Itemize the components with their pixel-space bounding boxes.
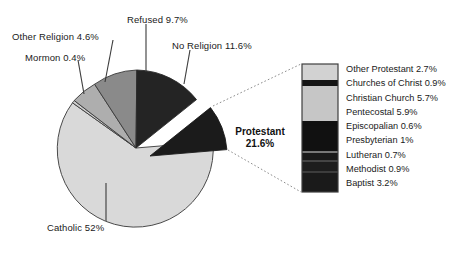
protestant-breakout-bar [302,64,338,192]
breakout-legend: Other Protestant 2.7% Churches of Christ… [346,62,474,191]
leader-line-no-religion [184,50,190,84]
legend-item: Methodist 0.9% [346,162,474,176]
bar-segment-episcopalian[interactable] [302,121,338,126]
legend-item: Churches of Christ 0.9% [346,76,474,90]
connector-top [213,64,301,106]
legend-item: Christian Church 5.7% [346,91,474,105]
label-protestant: Protestant 21.6% [227,126,293,149]
bar-segment-presbyterian[interactable] [302,126,338,152]
bar-segment-churches-of-christ[interactable] [302,80,338,86]
legend-item: Baptist 3.2% [346,176,474,190]
legend-item: Episcopalian 0.6% [346,119,474,133]
bar-segment-baptist[interactable] [302,172,338,192]
label-mormon: Mormon 0.4% [25,52,85,63]
bar-segment-christian-church[interactable] [302,86,338,103]
label-refused: Refused 9.7% [127,14,188,25]
bar-segment-lutheran[interactable] [302,152,338,161]
legend-item: Lutheran 0.7% [346,148,474,162]
label-protestant-name: Protestant [227,126,293,138]
bar-segment-other-protestant[interactable] [302,64,338,80]
connector-bottom [228,150,301,192]
label-catholic: Catholic 52% [47,222,104,233]
leader-line-mormon [78,60,84,94]
label-other-religion: Other Religion 4.6% [12,31,99,42]
label-no-religion: No Religion 11.6% [172,40,252,51]
label-protestant-value: 21.6% [227,138,293,150]
chart-canvas: Other Religion 4.6% Mormon 0.4% Refused … [0,0,474,257]
legend-item: Presbyterian 1% [346,133,474,147]
legend-item: Pentecostal 5.9% [346,105,474,119]
legend-item: Other Protestant 2.7% [346,62,474,76]
bar-segment-methodist[interactable] [302,161,338,172]
pie-slices [57,70,227,227]
bar-segment-pentecostal[interactable] [302,103,338,121]
